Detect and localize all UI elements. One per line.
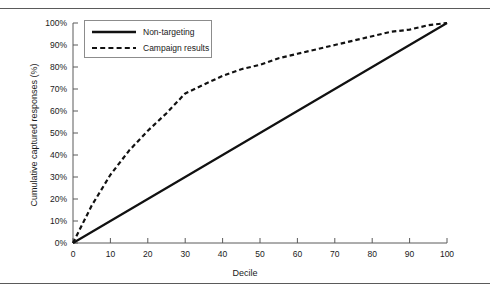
x-tick-label: 10 bbox=[90, 249, 130, 259]
y-tick-label: 50% bbox=[23, 128, 67, 138]
y-tick-label: 10% bbox=[23, 216, 67, 226]
x-tick-label: 20 bbox=[128, 249, 168, 259]
x-tick-label: 40 bbox=[203, 249, 243, 259]
x-tick-label: 100 bbox=[427, 249, 467, 259]
y-tick-label: 40% bbox=[23, 150, 67, 160]
legend-label-campaign-results: Campaign results bbox=[143, 43, 209, 53]
y-tick-label: 90% bbox=[23, 40, 67, 50]
chart-legend: Non-targeting Campaign results bbox=[84, 20, 212, 58]
x-tick-label: 90 bbox=[390, 249, 430, 259]
y-tick-label: 100% bbox=[23, 18, 67, 28]
legend-entry-non-targeting: Non-targeting bbox=[85, 25, 213, 39]
x-axis-title: Decile bbox=[0, 268, 490, 278]
x-tick-label: 60 bbox=[277, 249, 317, 259]
y-tick-label: 30% bbox=[23, 172, 67, 182]
y-tick-label: 70% bbox=[23, 84, 67, 94]
x-tick-label: 50 bbox=[240, 249, 280, 259]
legend-label-non-targeting: Non-targeting bbox=[143, 27, 195, 37]
figure-container: Decile Cumulative captured responses (%)… bbox=[0, 0, 490, 294]
legend-entry-campaign-results: Campaign results bbox=[85, 41, 213, 55]
legend-solid-line-icon bbox=[92, 27, 136, 37]
x-tick-label: 0 bbox=[53, 249, 93, 259]
legend-dashed-line-icon bbox=[92, 43, 136, 53]
x-tick-label: 70 bbox=[315, 249, 355, 259]
y-tick-label: 60% bbox=[23, 106, 67, 116]
y-tick-label: 0% bbox=[23, 238, 67, 248]
y-tick-label: 20% bbox=[23, 194, 67, 204]
y-tick-label: 80% bbox=[23, 62, 67, 72]
x-tick-label: 80 bbox=[352, 249, 392, 259]
x-tick-label: 30 bbox=[165, 249, 205, 259]
